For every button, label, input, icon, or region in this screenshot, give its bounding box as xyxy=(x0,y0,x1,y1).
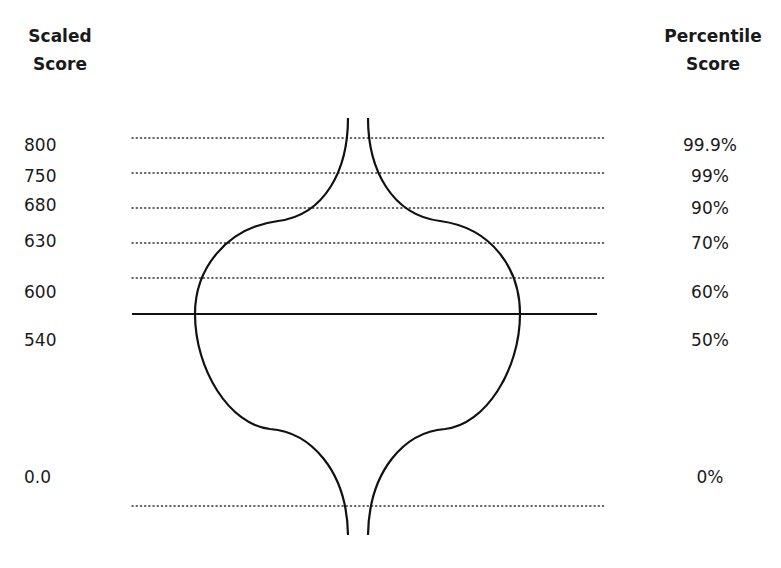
percentile-label-99-9: 99.9% xyxy=(660,135,760,155)
percentile-label-0: 0% xyxy=(660,467,760,487)
percentile-label-60: 60% xyxy=(660,282,760,302)
scaled-label-750: 750 xyxy=(24,166,84,186)
distribution-curve xyxy=(195,118,520,535)
percentile-label-70: 70% xyxy=(660,233,760,253)
scaled-label-0: 0.0 xyxy=(24,467,84,487)
dotted-gridlines xyxy=(132,138,604,506)
percentile-label-90: 90% xyxy=(660,198,760,218)
curve-left xyxy=(195,118,348,535)
scaled-label-800: 800 xyxy=(24,135,84,155)
curve-right xyxy=(368,118,520,535)
scaled-label-630: 630 xyxy=(24,231,84,251)
percentile-label-99: 99% xyxy=(660,166,760,186)
scaled-label-540: 540 xyxy=(24,330,84,350)
percentile-label-50: 50% xyxy=(660,330,760,350)
scaled-label-600: 600 xyxy=(24,282,84,302)
scaled-label-680: 680 xyxy=(24,195,84,215)
